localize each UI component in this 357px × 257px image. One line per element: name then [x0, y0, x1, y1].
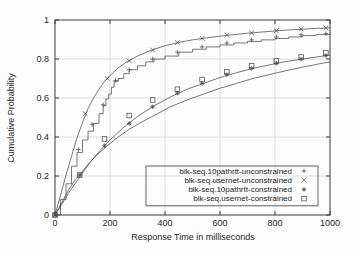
cdf-chart-figure: 0200400600800100000.20.40.60.81 blk-seq.…: [0, 0, 357, 257]
y-tick-label: 1: [44, 15, 49, 25]
x-tick-label: 800: [267, 218, 282, 228]
legend-marker-2: [302, 187, 307, 192]
y-tick-label: 0.6: [36, 93, 49, 103]
legend: blk-seq.10pathrtt-unconstrainedblk-seq.u…: [146, 166, 318, 206]
marker-s0-5: [127, 67, 132, 72]
y-tick-label: 0.4: [36, 132, 49, 142]
legend-label-1: blk-seq.usernet-unconstrained: [184, 176, 292, 185]
x-tick-label: 1000: [320, 218, 340, 228]
x-tick-label: 600: [212, 218, 227, 228]
plot-canvas: 0200400600800100000.20.40.60.81 blk-seq.…: [0, 0, 357, 257]
marker-s2-3: [127, 121, 132, 126]
x-tick-label: 0: [52, 218, 57, 228]
marker-s2-7: [225, 72, 230, 77]
x-tick-label: 400: [157, 218, 172, 228]
marker-s2-2: [102, 143, 107, 148]
legend-label-0: blk-seq.10pathrtt-unconstrained: [179, 167, 292, 176]
legend-marker-1: [302, 178, 307, 183]
y-tick-label: 0.2: [36, 171, 49, 181]
y-tick-label: 0.8: [36, 54, 49, 64]
marker-s0-13: [324, 31, 329, 36]
marker-s1-2: [105, 76, 110, 81]
marker-s2-11: [324, 53, 329, 58]
legend-label-2: blk-seq.10pathrtt-constrained: [188, 185, 292, 194]
marker-s3-2: [102, 137, 107, 142]
marker-s3-4: [150, 98, 155, 103]
y-tick-label: 0: [44, 210, 49, 220]
marker-s2-0: [53, 213, 58, 218]
legend-marker-3: [302, 196, 307, 201]
y-axis-title: Cumulative Probability: [6, 73, 16, 163]
marker-s0-8: [200, 45, 205, 50]
legend-marker-0: [302, 169, 307, 174]
x-tick-label: 200: [102, 218, 117, 228]
marker-s0-3: [101, 103, 106, 108]
marker-s3-3: [127, 113, 132, 118]
legend-label-3: blk-seq.usernet-constrained: [193, 194, 292, 203]
tick-labels: 0200400600800100000.20.40.60.81: [36, 15, 340, 228]
marker-s2-1: [77, 173, 82, 178]
marker-s2-4: [150, 104, 155, 109]
marker-s0-1: [76, 147, 81, 152]
x-axis-title: Response Time in milliseconds: [131, 232, 255, 242]
